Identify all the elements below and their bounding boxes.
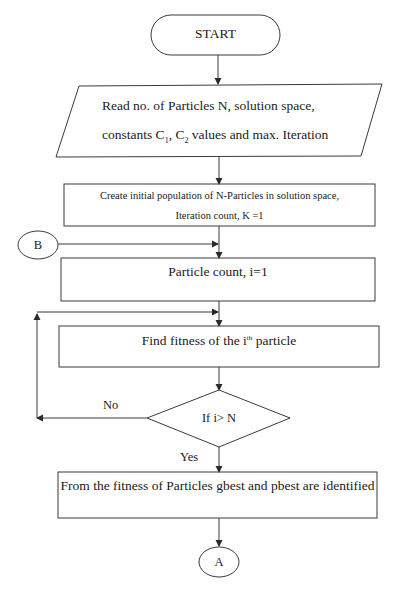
fitness-prefix: Find fitness of the i [142, 333, 247, 348]
decision-label: If i> N [169, 412, 269, 425]
identify-label: From the fitness of Particles gbest and … [58, 479, 377, 493]
input-line-1: Read no. of Particles N, solution space, [102, 99, 315, 113]
connector-b-label: B [18, 239, 58, 252]
fitness-label: Find fitness of the ith particle [59, 334, 379, 348]
no-label: No [103, 399, 118, 412]
flowchart-canvas [0, 0, 397, 593]
start-label: START [151, 27, 280, 41]
yes-label: Yes [180, 451, 198, 464]
connector-a-label: A [199, 556, 239, 569]
init-line-2: Iteration count, K =1 [64, 211, 375, 222]
particle-count-label: Particle count, i=1 [61, 265, 375, 279]
input-line-2: constants C1, C2 values and max. Iterati… [102, 128, 328, 145]
input-parallelogram [56, 84, 382, 157]
input-line-2-suffix: values and max. Iteration [188, 127, 328, 142]
fitness-suffix: particle [252, 333, 296, 348]
init-line-1: Create initial population of N-Particles… [64, 191, 375, 202]
input-line-2-prefix: constants C [102, 127, 165, 142]
input-line-2-mid: , C [169, 127, 185, 142]
